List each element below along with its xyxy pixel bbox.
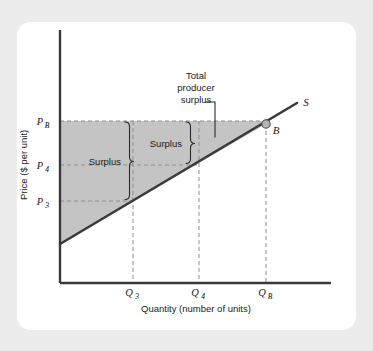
svg-text:P: P bbox=[36, 160, 44, 171]
svg-text:B: B bbox=[45, 121, 50, 130]
svg-text:B: B bbox=[268, 292, 273, 301]
surplus-upper-label: Surplus bbox=[150, 138, 182, 149]
surplus-lower-label: Surplus bbox=[89, 156, 121, 167]
svg-text:3: 3 bbox=[134, 292, 139, 301]
svg-text:4: 4 bbox=[45, 165, 49, 174]
svg-text:Q: Q bbox=[258, 287, 266, 298]
y-tick-p4: P 4 bbox=[36, 160, 49, 174]
producer-surplus-chart: Price ($ per unit) Quantity (number of u… bbox=[0, 0, 373, 351]
total-producer-surplus-line3: surplus bbox=[181, 94, 212, 105]
svg-text:Q: Q bbox=[191, 287, 199, 298]
svg-text:P: P bbox=[36, 116, 44, 127]
x-axis-title: Quantity (number of units) bbox=[141, 303, 251, 314]
svg-text:3: 3 bbox=[44, 201, 49, 210]
y-tick-pb: P B bbox=[36, 116, 50, 130]
svg-text:4: 4 bbox=[201, 292, 205, 301]
point-b-marker bbox=[262, 120, 270, 128]
total-producer-surplus-line2: producer bbox=[177, 82, 215, 93]
supply-curve-label: S bbox=[303, 96, 309, 108]
point-b-label: B bbox=[273, 124, 280, 136]
x-tick-qb: Q B bbox=[258, 287, 273, 301]
x-tick-q3: Q 3 bbox=[125, 287, 139, 301]
x-tick-q4: Q 4 bbox=[191, 287, 205, 301]
y-tick-p3: P 3 bbox=[36, 196, 49, 210]
svg-text:Q: Q bbox=[125, 287, 133, 298]
total-producer-surplus-line1: Total bbox=[186, 70, 206, 81]
y-axis-title: Price ($ per unit) bbox=[18, 130, 29, 200]
svg-text:P: P bbox=[36, 196, 44, 207]
